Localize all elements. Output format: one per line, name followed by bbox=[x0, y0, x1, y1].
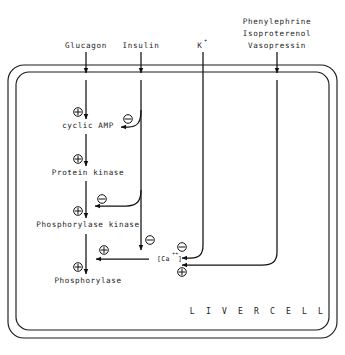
membrane-inner bbox=[16, 72, 329, 330]
node-label-protein-kinase: Protein kinase bbox=[52, 168, 124, 177]
stimulus-label-glucagon: Glucagon bbox=[65, 41, 107, 50]
sign-badges bbox=[74, 108, 187, 277]
stimulus-label-phenylephrine: Phenylephrine bbox=[243, 17, 312, 26]
membrane-outer bbox=[8, 65, 337, 338]
node-label-phosphorylase: Phosphorylase bbox=[54, 276, 121, 285]
sign-calcium-to-phosphorylase bbox=[100, 246, 109, 255]
potassium-symbol: K bbox=[197, 41, 202, 50]
adrenergic-pathway bbox=[182, 80, 277, 265]
stimulus-label-vasopressin: Vasopressin bbox=[248, 41, 306, 50]
sign-insulin-to-phk bbox=[98, 195, 107, 204]
stimulus-entry-arrows bbox=[86, 52, 277, 80]
sign-camp-to-protein-kinase bbox=[74, 155, 83, 164]
sign-adrenergic-to-calcium bbox=[178, 268, 187, 277]
liver-cell-signaling-diagram: Glucagon Insulin K + Phenylephrine Isopr… bbox=[0, 0, 345, 355]
stimulus-label-isoproterenol: Isoproterenol bbox=[243, 29, 312, 38]
potassium-pathway bbox=[182, 80, 203, 258]
sign-phk-to-phosphorylase bbox=[74, 263, 83, 272]
node-label-calcium: [Ca ++ ] bbox=[157, 250, 182, 262]
sign-protein-kinase-to-phk bbox=[74, 207, 83, 216]
cell-compartment-label: L I V E R C E L L bbox=[190, 307, 326, 316]
sign-insulin-to-calcium bbox=[146, 236, 155, 245]
sign-potassium-to-calcium bbox=[178, 243, 187, 252]
sign-glucagon-to-camp bbox=[74, 108, 83, 117]
stimulus-label-insulin: Insulin bbox=[123, 41, 160, 50]
diagram-canvas: Glucagon Insulin K + Phenylephrine Isopr… bbox=[0, 0, 345, 355]
node-label-cyclic-amp: cyclic AMP bbox=[62, 121, 114, 130]
node-label-phosphorylase-kinase: Phosphorylase kinase bbox=[36, 220, 139, 229]
potassium-charge-superscript: + bbox=[204, 37, 207, 43]
sign-insulin-to-camp bbox=[124, 115, 133, 124]
cell-membrane bbox=[8, 65, 337, 338]
stimulus-label-potassium: K + bbox=[197, 37, 207, 50]
adrenergic-to-calcium-line bbox=[182, 80, 277, 265]
potassium-to-calcium-line bbox=[182, 80, 203, 258]
calcium-bracket-open: [Ca bbox=[157, 255, 170, 263]
calcium-bracket-close: ] bbox=[178, 255, 182, 263]
